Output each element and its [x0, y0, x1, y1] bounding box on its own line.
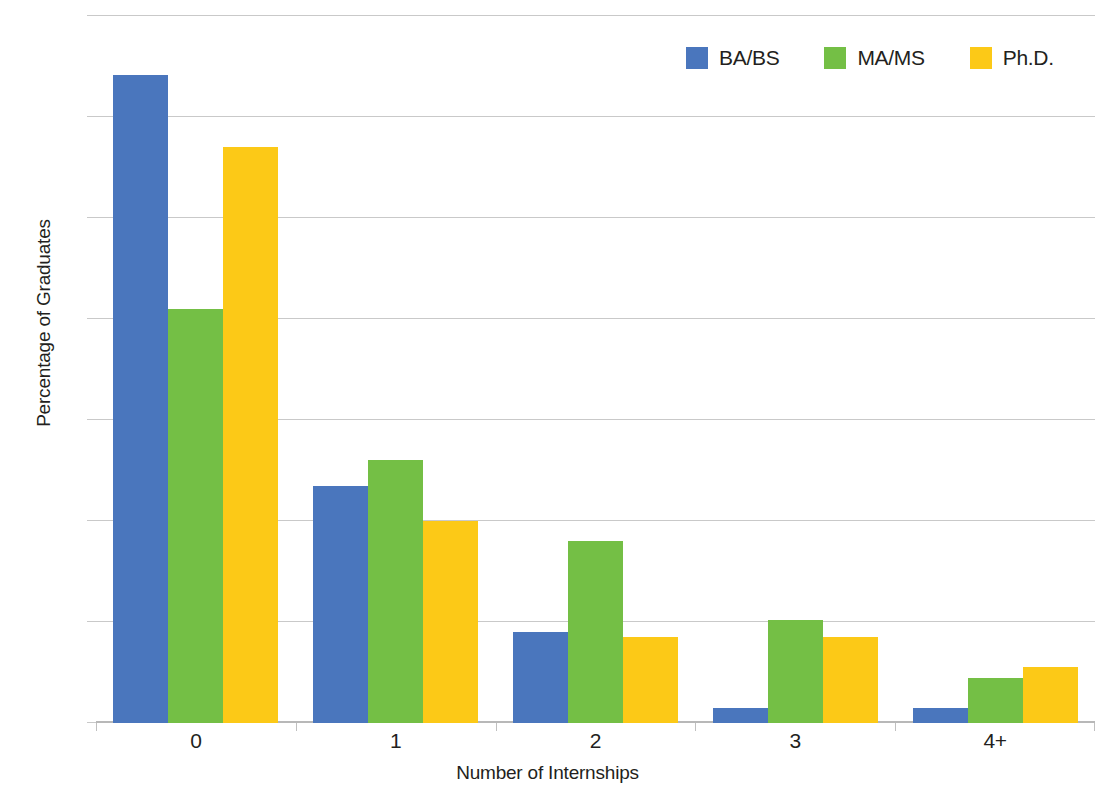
legend-item: MA/MS: [824, 46, 924, 70]
gridline: [96, 15, 1095, 16]
bar: [368, 460, 423, 723]
y-tick-mark: [87, 15, 96, 16]
chart-page: Percentage of Graduates 0%10%20%30%40%50…: [0, 0, 1095, 785]
legend-label: MA/MS: [857, 46, 924, 70]
legend-swatch-icon: [824, 47, 846, 69]
bar: [113, 75, 168, 723]
bar: [713, 708, 768, 723]
x-axis-title: Number of Internships: [0, 762, 1095, 784]
x-tick-mark: [695, 723, 696, 731]
bar: [513, 632, 568, 723]
bar: [968, 678, 1023, 723]
legend-item: Ph.D.: [970, 46, 1054, 70]
bar: [623, 637, 678, 723]
bar: [313, 486, 368, 723]
y-tick-mark: [87, 217, 96, 218]
bar: [223, 147, 278, 723]
y-tick-mark: [87, 621, 96, 622]
y-axis-title: Percentage of Graduates: [33, 173, 55, 473]
gridline: [96, 116, 1095, 117]
y-tick-mark: [87, 318, 96, 319]
x-tick-label: 3: [735, 729, 855, 753]
x-tick-mark: [496, 723, 497, 731]
bar: [768, 620, 823, 723]
x-tick-mark: [895, 723, 896, 731]
bar: [823, 637, 878, 723]
bar: [913, 708, 968, 723]
bar: [1023, 667, 1078, 723]
chart-legend: BA/BSMA/MSPh.D.: [686, 46, 1054, 70]
y-tick-mark: [87, 419, 96, 420]
x-tick-mark: [296, 723, 297, 731]
y-tick-mark: [87, 722, 96, 723]
bar: [168, 309, 223, 723]
legend-label: Ph.D.: [1003, 46, 1054, 70]
x-tick-label: 0: [136, 729, 256, 753]
legend-label: BA/BS: [719, 46, 779, 70]
bar: [423, 521, 478, 723]
y-tick-mark: [87, 520, 96, 521]
x-tick-label: 4+: [935, 729, 1055, 753]
legend-swatch-icon: [686, 47, 708, 69]
plot-area: [96, 16, 1095, 723]
x-tick-mark: [96, 723, 97, 731]
bar: [568, 541, 623, 723]
legend-item: BA/BS: [686, 46, 779, 70]
x-tick-label: 1: [336, 729, 456, 753]
legend-swatch-icon: [970, 47, 992, 69]
x-tick-label: 2: [536, 729, 656, 753]
y-tick-mark: [87, 116, 96, 117]
